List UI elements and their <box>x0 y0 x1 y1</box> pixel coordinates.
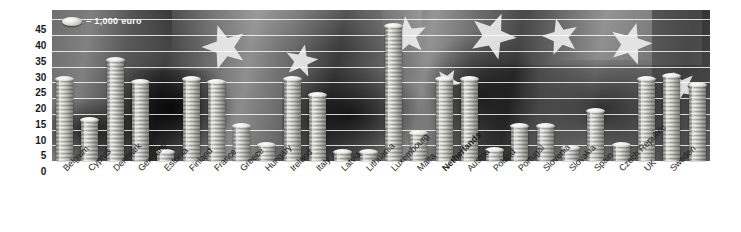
y-tick-label-15: 15 <box>35 118 46 129</box>
coin-icon <box>62 17 82 26</box>
y-tick-label-10: 10 <box>35 134 46 145</box>
y-tick-label-25: 25 <box>35 87 46 98</box>
y-tick-label-20: 20 <box>35 103 46 114</box>
bar-sweden <box>663 76 680 161</box>
legend: = 1,000 euro <box>60 15 146 27</box>
plot-area: = 1,000 euro <box>52 10 710 162</box>
y-tick-label-45: 45 <box>35 24 46 35</box>
y-tick-label-35: 35 <box>35 55 46 66</box>
coin-stack-bar-chart: 051015202530354045 = 1,000 euro BelgiumC… <box>0 0 741 232</box>
bar-denmark <box>107 60 124 161</box>
legend-label: = 1,000 euro <box>86 16 142 26</box>
y-tick-label-40: 40 <box>35 40 46 51</box>
y-tick-label-30: 30 <box>35 71 46 82</box>
bar-belgium <box>56 79 73 161</box>
y-tick-label-5: 5 <box>41 150 46 161</box>
y-axis: 051015202530354045 <box>0 10 52 162</box>
bar-netherlands <box>436 79 453 161</box>
bars <box>52 10 710 162</box>
x-axis-labels: BelgiumCyprusDenmarkGermanyEstoniaFinlan… <box>0 162 741 232</box>
